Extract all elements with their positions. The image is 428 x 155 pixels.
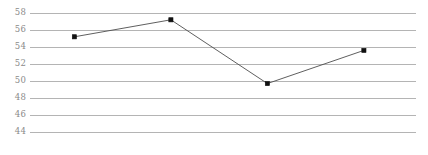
data-point-marker [265, 81, 269, 85]
data-point-marker [362, 48, 366, 52]
y-axis-tick-54: 54 [15, 42, 26, 51]
data-point-marker [72, 35, 76, 39]
y-axis-tick-50: 50 [15, 76, 26, 85]
series-line-0 [74, 20, 364, 84]
line-chart: 4446485052545658 [0, 0, 428, 155]
y-axis-tick-48: 48 [15, 93, 26, 102]
y-axis-tick-46: 46 [15, 110, 26, 119]
y-axis-tick-56: 56 [15, 25, 26, 34]
y-axis-tick-44: 44 [15, 127, 26, 136]
data-point-marker [169, 18, 173, 22]
y-axis-tick-58: 58 [15, 8, 26, 17]
plot-area [0, 0, 428, 155]
series-group [72, 18, 366, 86]
y-axis-tick-52: 52 [15, 59, 26, 68]
gridlines-group [30, 14, 416, 133]
